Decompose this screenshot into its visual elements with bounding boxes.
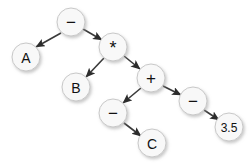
tree-edge-n7-to-n9: [204, 110, 219, 120]
node-label-n5: +: [146, 69, 156, 88]
tree-edge-n5-to-n6: [123, 88, 141, 103]
nodes-layer: −A*B+−−C3.5: [12, 8, 243, 157]
node-label-n1: −: [66, 13, 76, 32]
node-label-n9: 3.5: [221, 121, 238, 135]
tree-edge-n3-to-n4: [86, 58, 104, 77]
tree-svg: −A*B+−−C3.5: [0, 0, 249, 167]
tree-edge-n5-to-n7: [163, 86, 181, 95]
node-label-n7: −: [188, 92, 198, 111]
expression-tree-canvas: −A*B+−−C3.5: [0, 0, 249, 167]
tree-node-n1[interactable]: −: [57, 8, 85, 36]
tree-node-n6[interactable]: −: [99, 99, 127, 127]
tree-node-n3[interactable]: *: [99, 33, 127, 61]
tree-edge-n6-to-n8: [124, 123, 141, 136]
tree-node-n5[interactable]: +: [137, 64, 165, 92]
node-label-n3: *: [109, 38, 116, 58]
node-label-n8: C: [147, 136, 157, 152]
tree-edge-n3-to-n5: [124, 56, 140, 69]
node-label-n4: B: [71, 80, 80, 96]
tree-node-n4[interactable]: B: [62, 73, 90, 101]
tree-edge-n1-to-n3: [83, 29, 102, 40]
tree-node-n8[interactable]: C: [138, 129, 166, 157]
tree-edge-n1-to-n2: [36, 33, 61, 47]
node-label-n6: −: [108, 104, 118, 123]
tree-node-n2[interactable]: A: [12, 43, 40, 71]
node-label-n2: A: [21, 50, 31, 66]
tree-node-n9[interactable]: 3.5: [215, 113, 243, 141]
tree-node-n7[interactable]: −: [179, 87, 207, 115]
